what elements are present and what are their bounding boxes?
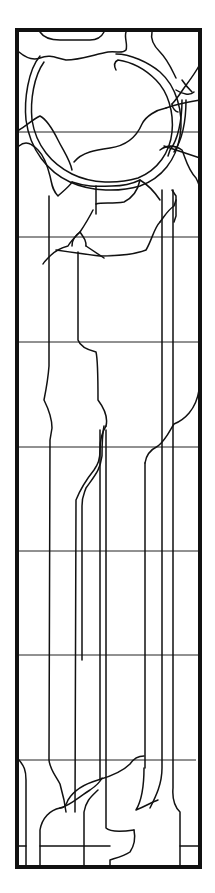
- branch-cluster: [43, 200, 176, 264]
- vertical-leads: [44, 190, 199, 866]
- line-art-diagram: [0, 0, 215, 893]
- horizontal-gridlines: [19, 132, 198, 760]
- top-lead-lines: [19, 32, 200, 104]
